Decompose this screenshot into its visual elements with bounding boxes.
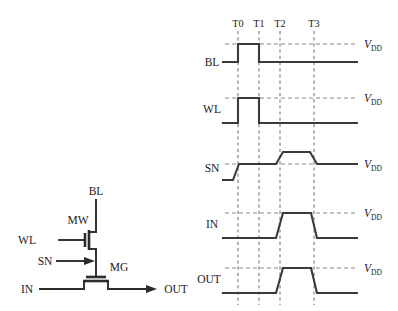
vdd-label-out: VDD xyxy=(364,262,383,277)
vdd-label-in: VDD xyxy=(364,207,383,222)
circuit-schematic: BL MW WL SN xyxy=(18,185,188,295)
figure-root: BL MW WL SN xyxy=(0,0,398,311)
vdd-label-bl: VDD xyxy=(364,38,383,53)
waveform-wl xyxy=(222,98,358,123)
vdd-label-sn: VDD xyxy=(364,158,383,173)
out-arrow-icon xyxy=(146,285,157,293)
waveform-bl xyxy=(222,44,358,62)
signal-label-sn: SN xyxy=(205,162,220,174)
time-mark-label-t2: T2 xyxy=(274,18,285,29)
circuit-label-in: IN xyxy=(21,283,34,295)
time-mark-label-t1: T1 xyxy=(253,18,264,29)
time-mark-label-t0: T0 xyxy=(232,18,243,29)
timing-diagram: T0 T1 T2 T3 BL VDD WL VDD xyxy=(197,18,382,305)
circuit-label-out: OUT xyxy=(164,283,188,295)
signal-label-wl: WL xyxy=(203,103,221,115)
waveform-in xyxy=(222,213,358,238)
circuit-label-mw: MW xyxy=(67,214,88,226)
signal-row-bl: BL VDD xyxy=(205,38,383,68)
waveform-sn xyxy=(222,152,358,180)
signal-label-out: OUT xyxy=(197,273,221,285)
circuit-label-bl: BL xyxy=(89,185,104,197)
signal-row-wl: WL VDD xyxy=(203,92,382,123)
sn-arrow-icon xyxy=(84,257,95,265)
signal-row-out: OUT VDD xyxy=(197,262,382,293)
time-mark-label-t3: T3 xyxy=(308,18,319,29)
circuit-label-wl: WL xyxy=(18,234,36,246)
circuit-label-sn: SN xyxy=(38,255,53,267)
signal-row-sn: SN VDD xyxy=(205,152,383,180)
waveform-out xyxy=(222,268,358,293)
figure-canvas: BL MW WL SN xyxy=(0,0,398,311)
signal-label-in: IN xyxy=(206,218,219,230)
circuit-label-mg: MG xyxy=(110,261,129,273)
vdd-label-wl: VDD xyxy=(364,92,383,107)
signal-label-bl: BL xyxy=(205,56,220,68)
signal-row-in: IN VDD xyxy=(206,207,383,238)
